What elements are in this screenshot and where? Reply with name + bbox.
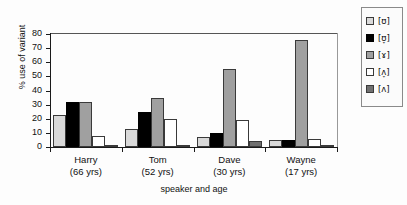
speaker-age: (17 yrs) xyxy=(251,166,351,178)
legend-label: [ʌ̞] xyxy=(378,67,390,77)
bar[interactable] xyxy=(269,140,282,147)
bar[interactable] xyxy=(223,69,236,147)
x-axis-tick-mark xyxy=(122,147,123,152)
legend-swatch xyxy=(366,34,374,42)
x-axis-tick-mark xyxy=(337,147,338,152)
bar[interactable] xyxy=(105,145,118,147)
y-axis-tick-label: 80 xyxy=(32,28,42,38)
bar[interactable] xyxy=(66,102,79,147)
y-axis-tick-label: 30 xyxy=(32,99,42,109)
bar-group xyxy=(197,34,262,147)
bar[interactable] xyxy=(321,145,334,147)
y-axis-tick-label: 0 xyxy=(37,141,42,151)
legend-item[interactable]: [ɤ] xyxy=(366,46,402,63)
bar[interactable] xyxy=(308,139,321,147)
bar[interactable] xyxy=(236,120,249,147)
legend-item[interactable]: [ʊ] xyxy=(366,12,402,29)
legend-item[interactable]: [ʊ̞] xyxy=(366,29,402,46)
speaker-name: Wayne xyxy=(251,154,351,166)
plot-area xyxy=(50,34,337,147)
legend-item[interactable]: [ʌ̞] xyxy=(366,63,402,80)
bar[interactable] xyxy=(151,98,164,147)
bar[interactable] xyxy=(210,133,223,147)
legend-label: [ɤ] xyxy=(378,50,390,60)
legend-item[interactable]: [ʌ] xyxy=(366,80,402,97)
y-axis-tick-label: 20 xyxy=(32,113,42,123)
y-axis-tick-label: 50 xyxy=(32,70,42,80)
x-axis-title: speaker and age xyxy=(50,184,338,194)
bar[interactable] xyxy=(177,145,190,147)
y-axis-tick-label: 10 xyxy=(32,127,42,137)
bar[interactable] xyxy=(164,119,177,147)
bar[interactable] xyxy=(92,136,105,147)
legend: [ʊ][ʊ̞][ɤ][ʌ̞][ʌ] xyxy=(361,7,403,107)
legend-swatch xyxy=(366,68,374,76)
x-axis-group-label: Wayne(17 yrs) xyxy=(251,154,351,178)
y-axis-tick-label: 60 xyxy=(32,56,42,66)
bar[interactable] xyxy=(249,141,262,147)
legend-label: [ʊ] xyxy=(378,16,390,26)
bar[interactable] xyxy=(295,40,308,147)
x-axis-tick-mark xyxy=(194,147,195,152)
y-axis-tick-label: 70 xyxy=(32,42,42,52)
plot-right-border xyxy=(337,33,338,148)
y-axis-title: % use of variant xyxy=(17,0,27,117)
bar[interactable] xyxy=(197,137,210,147)
bar[interactable] xyxy=(79,102,92,147)
bar[interactable] xyxy=(53,115,66,147)
legend-label: [ʊ̞] xyxy=(378,33,390,43)
bar-chart-figure: % use of variant 01020304050607080 Harry… xyxy=(0,0,407,205)
legend-swatch xyxy=(366,17,374,25)
bar-group xyxy=(125,34,190,147)
legend-swatch xyxy=(366,85,374,93)
x-axis-tick-mark xyxy=(50,147,51,152)
y-axis-tick-label: 40 xyxy=(32,85,42,95)
bar-group xyxy=(269,34,334,147)
x-axis-tick-mark xyxy=(265,147,266,152)
legend-label: [ʌ] xyxy=(378,84,390,94)
bar-group xyxy=(53,34,118,147)
legend-swatch xyxy=(366,51,374,59)
bar[interactable] xyxy=(125,129,138,147)
bar[interactable] xyxy=(138,112,151,147)
bar[interactable] xyxy=(282,140,295,147)
